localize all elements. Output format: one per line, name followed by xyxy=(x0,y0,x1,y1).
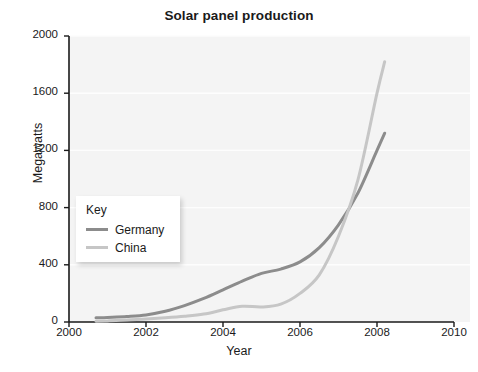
plot-background xyxy=(69,36,470,322)
y-tick-label: 2000 xyxy=(18,28,58,40)
legend-swatch-germany xyxy=(86,228,108,231)
plot-svg xyxy=(0,0,478,372)
chart-container: Solar panel production 04008001200160020… xyxy=(0,0,478,372)
legend-item-china: China xyxy=(86,239,146,256)
y-tick-label: 0 xyxy=(18,314,58,326)
legend-label-china: China xyxy=(115,241,146,255)
x-tick-label: 2000 xyxy=(41,326,97,338)
legend-item-germany: Germany xyxy=(86,221,164,238)
x-axis-title: Year xyxy=(0,344,478,358)
x-tick-label: 2008 xyxy=(349,326,405,338)
x-tick-label: 2006 xyxy=(272,326,328,338)
legend-swatch-china xyxy=(86,246,108,249)
x-tick-label: 2004 xyxy=(195,326,251,338)
legend-title: Key xyxy=(86,203,107,217)
y-axis-title: Megawatts xyxy=(31,93,45,213)
legend-label-germany: Germany xyxy=(115,223,164,237)
x-tick-label: 2002 xyxy=(118,326,174,338)
x-tick-label: 2010 xyxy=(426,326,478,338)
y-tick-label: 400 xyxy=(18,257,58,269)
legend: Key Germany China xyxy=(76,196,180,262)
